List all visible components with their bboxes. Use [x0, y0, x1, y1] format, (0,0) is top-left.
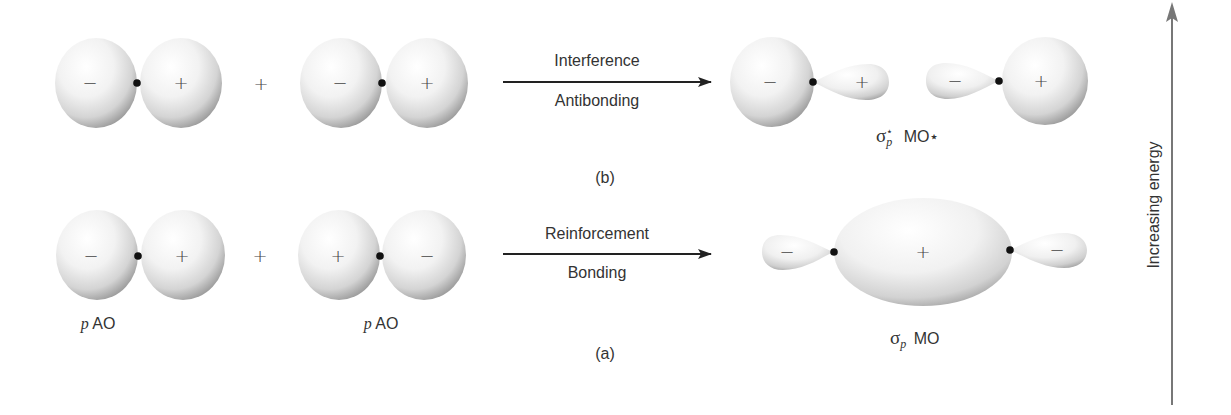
phase-sign: −	[332, 74, 347, 92]
panel-b-ao-left	[55, 38, 222, 128]
subscript-p: p	[886, 135, 892, 149]
phase-sign: −	[83, 247, 98, 265]
combine-plus-sign: +	[253, 75, 268, 93]
combine-plus-sign: +	[252, 247, 267, 265]
ao-label-left: p AO	[81, 316, 116, 332]
nucleus-dot	[376, 252, 384, 260]
sigma-symbol: σ	[890, 327, 900, 348]
phase-sign: +	[173, 74, 188, 92]
nucleus-dot	[830, 248, 838, 256]
nucleus-dot	[809, 78, 817, 86]
phase-sign: +	[854, 73, 869, 91]
phase-sign: +	[1033, 72, 1048, 90]
phase-sign: −	[779, 243, 794, 261]
subscript-p: p	[900, 337, 906, 351]
sigma-symbol: σ	[876, 125, 886, 146]
panel-a-ao-right	[298, 210, 466, 300]
nucleus-dot	[133, 79, 141, 87]
energy-axis-label: Increasing energy	[1145, 141, 1163, 268]
phase-sign: −	[947, 72, 962, 90]
ao-label-right: p AO	[364, 316, 399, 332]
mo-text: MO	[914, 330, 940, 347]
nucleus-dot	[134, 252, 142, 260]
ao-p-italic: p	[81, 315, 89, 332]
nucleus-dot	[995, 77, 1003, 85]
phase-sign: +	[419, 74, 434, 92]
orbital-small-lobe	[762, 235, 833, 270]
nucleus-dot	[1006, 246, 1014, 254]
phase-sign: +	[174, 247, 189, 265]
phase-sign: −	[419, 247, 434, 265]
mo-label-antibonding: σp⋆ MO⋆	[876, 126, 939, 145]
phase-sign: −	[1049, 241, 1064, 259]
phase-sign: −	[762, 73, 777, 91]
mo-text: MO⋆	[904, 128, 940, 145]
ao-p-italic: p	[364, 315, 372, 332]
phase-sign: +	[330, 247, 345, 265]
orbital-small-lobe	[813, 64, 889, 100]
mo-label-bonding: σp MO	[890, 328, 939, 347]
panel-a-ao-left	[56, 210, 225, 300]
panel-caption-a: (a)	[595, 346, 615, 362]
arrow-label-bonding: Bonding	[568, 265, 627, 281]
panel-b-ao-right	[300, 38, 468, 128]
arrow-label-reinforcement: Reinforcement	[545, 226, 649, 242]
phase-sign: −	[82, 74, 97, 92]
panel-caption-b: (b)	[595, 170, 615, 186]
ao-text: AO	[375, 315, 398, 332]
phase-sign: +	[915, 243, 930, 261]
arrow-label-antibonding: Antibonding	[555, 93, 640, 109]
superscript-star: ⋆	[886, 125, 893, 137]
ao-text: AO	[92, 315, 115, 332]
arrow-label-interference: Interference	[554, 53, 639, 69]
nucleus-dot	[378, 79, 386, 87]
